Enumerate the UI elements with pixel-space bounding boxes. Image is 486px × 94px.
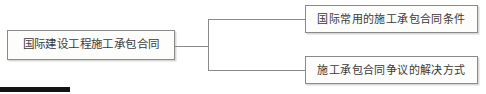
- diagram-canvas: 国际建设工程施工承包合同 国际常用的施工承包合同条件 施工承包合同争议的解决方式: [0, 0, 486, 94]
- connector-vertical-spine: [208, 19, 209, 71]
- diagram-node-child-1-label: 施工承包合同争议的解决方式: [317, 65, 465, 76]
- diagram-node-child-1[interactable]: 施工承包合同争议的解决方式: [305, 56, 478, 84]
- connector-root-stem: [175, 46, 209, 47]
- connector-branch-top: [208, 19, 305, 20]
- diagram-node-child-0-label: 国际常用的施工承包合同条件: [317, 14, 465, 25]
- diagram-node-root[interactable]: 国际建设工程施工承包合同: [7, 30, 175, 60]
- diagram-node-root-label: 国际建设工程施工承包合同: [23, 39, 160, 51]
- diagram-node-child-0[interactable]: 国际常用的施工承包合同条件: [305, 5, 478, 33]
- scan-artifact-bar: [0, 87, 70, 92]
- connector-branch-bottom: [208, 70, 305, 71]
